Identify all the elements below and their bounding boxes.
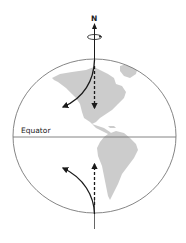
coriolis-diagram: Equator N <box>0 0 186 243</box>
equator-label: Equator <box>21 126 51 135</box>
north-label: N <box>91 14 97 23</box>
